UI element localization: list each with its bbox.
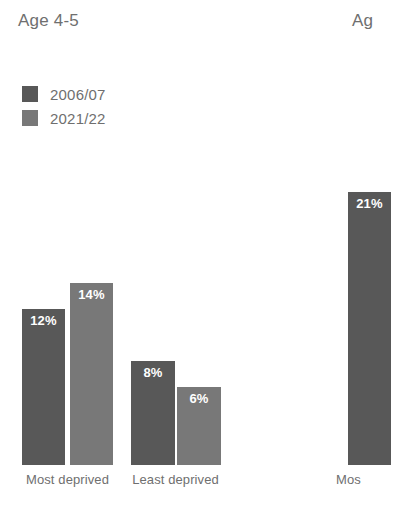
chart-panel-age-4-5: Age 4-5 2006/07 2021/22 12% 14% 8% <box>0 0 240 507</box>
x-axis-label-most-deprived-right: Mos <box>336 472 395 487</box>
bar-least-deprived-2006-07: 8% <box>131 361 175 465</box>
plot-area-left: 12% 14% 8% 6% Most deprived Least depriv… <box>0 0 240 507</box>
bar-least-deprived-2021-22: 6% <box>177 387 221 465</box>
bar-value-label: 6% <box>177 391 221 406</box>
x-axis-label-most-deprived: Most deprived <box>10 472 125 487</box>
chart-panel-age-right-clipped: Ag 21% Mos <box>328 0 395 507</box>
bar-most-deprived-2006-07: 12% <box>22 309 65 465</box>
bar-most-deprived-2021-22: 14% <box>70 283 113 465</box>
bar-value-label: 8% <box>131 365 175 380</box>
bar-value-label: 14% <box>70 287 113 302</box>
plot-area-right: 21% Mos <box>328 0 395 507</box>
bar-value-label: 12% <box>22 313 65 328</box>
bar-most-deprived-2006-07-right: 21% <box>348 192 391 465</box>
x-axis-label-least-deprived: Least deprived <box>118 472 233 487</box>
bar-value-label: 21% <box>348 196 391 211</box>
